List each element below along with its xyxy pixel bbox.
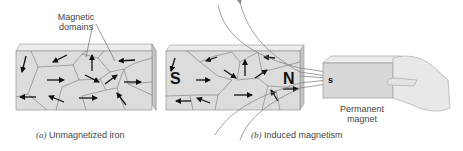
label-line-1: Magnetic xyxy=(46,12,106,22)
caption-letter: (a) xyxy=(36,130,47,140)
south-pole-label: S xyxy=(170,70,181,88)
magnet-pole-label: s xyxy=(328,75,333,85)
induced-magnetism-block xyxy=(166,2,327,140)
caption-text: Induced magnetism xyxy=(264,130,343,140)
caption-a: (a) Unmagnetized iron xyxy=(36,130,125,140)
label-line-1: Permanent xyxy=(332,104,392,114)
caption-letter: (b) xyxy=(251,130,262,140)
north-pole-label: N xyxy=(283,70,295,88)
magnetic-domains-label: Magnetic domains xyxy=(46,12,106,32)
permanent-magnet xyxy=(323,56,401,98)
caption-text: Unmagnetized iron xyxy=(49,130,125,140)
hand-icon xyxy=(387,56,450,111)
unmagnetized-iron-block xyxy=(16,24,156,110)
label-line-2: domains xyxy=(46,22,106,32)
permanent-magnet-label: Permanent magnet xyxy=(332,104,392,124)
caption-b: (b) Induced magnetism xyxy=(251,130,343,140)
label-line-2: magnet xyxy=(332,114,392,124)
